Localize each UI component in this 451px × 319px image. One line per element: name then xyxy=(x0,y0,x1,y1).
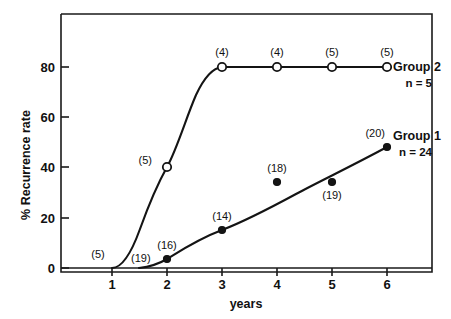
point-label-group2-year4: (4) xyxy=(270,46,283,58)
y-tick-label-0: 0 xyxy=(48,261,55,276)
data-point-group1-year2 xyxy=(164,256,171,263)
point-label-group1-year3: (14) xyxy=(212,210,232,222)
legend-group2-n: n = 5 xyxy=(405,77,432,89)
x-tick-label-5: 5 xyxy=(328,277,335,292)
point-label-group2-year3: (4) xyxy=(215,46,228,58)
y-axis-title: % Recurrence rate xyxy=(19,110,33,220)
y-tick-label-80: 80 xyxy=(41,60,55,75)
legend-group1-name: Group 1 xyxy=(393,129,441,143)
data-point-group1-year5 xyxy=(329,179,336,186)
point-label-group1-year6: (20) xyxy=(365,127,385,139)
chart-figure: 0 20 40 60 80 1 2 3 4 5 6 years % Recurr… xyxy=(0,0,451,319)
point-label-group2-year2: (5) xyxy=(139,154,152,166)
data-point-group2-year6 xyxy=(383,63,391,71)
x-tick-label-6: 6 xyxy=(383,277,390,292)
point-label-group1-origin: (19) xyxy=(131,252,151,264)
point-label-group1-year2: (16) xyxy=(157,239,177,251)
x-axis-title: years xyxy=(230,297,263,311)
recurrence-rate-line-chart: 0 20 40 60 80 1 2 3 4 5 6 years % Recurr… xyxy=(0,0,451,319)
y-tick-label-40: 40 xyxy=(41,160,55,175)
point-label-group2-year1: (5) xyxy=(91,248,104,260)
data-point-group1-year6 xyxy=(384,144,391,151)
y-tick-label-20: 20 xyxy=(41,211,55,226)
data-point-group2-year2 xyxy=(163,163,171,171)
point-label-group1-year4: (18) xyxy=(267,162,287,174)
legend-group1-n: n = 24 xyxy=(399,146,433,158)
data-point-group2-year5 xyxy=(328,63,336,71)
x-tick-label-1: 1 xyxy=(108,277,115,292)
data-point-group1-year4 xyxy=(274,179,281,186)
x-tick-label-3: 3 xyxy=(218,277,225,292)
data-point-group2-year4 xyxy=(273,63,281,71)
legend-group2-name: Group 2 xyxy=(393,60,441,74)
point-label-group2-year6: (5) xyxy=(380,46,393,58)
point-label-group2-year5: (5) xyxy=(325,46,338,58)
data-point-group1-year3 xyxy=(219,227,226,234)
point-label-group1-year5: (19) xyxy=(322,189,342,201)
x-tick-label-4: 4 xyxy=(273,277,281,292)
x-tick-label-2: 2 xyxy=(163,277,170,292)
y-tick-label-60: 60 xyxy=(41,110,55,125)
data-point-group2-year3 xyxy=(218,63,226,71)
